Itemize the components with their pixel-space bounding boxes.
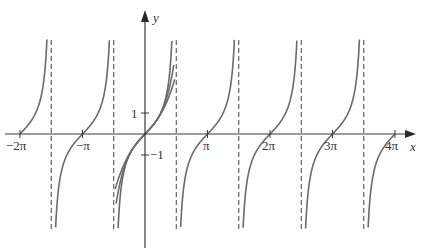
y-tick-label-neg1: −1 (150, 147, 164, 162)
x-tick-label-2pi: 2π (262, 138, 276, 153)
x-tick-label-neg2pi: −2π (6, 138, 27, 153)
x-tick-label-pi: π (203, 138, 210, 153)
y-tick-label-1: 1 (131, 106, 138, 121)
x-tick-label-4pi: 4π (385, 138, 399, 153)
x-tick-label-negpi: −π (76, 138, 90, 153)
x-axis-arrow-icon (405, 130, 416, 138)
tangent-graph: x y 1 −1 −2π −π π 2π 3π 4π (0, 0, 422, 252)
y-axis-arrow-icon (141, 10, 149, 22)
y-axis-label: y (151, 10, 159, 25)
tan-curve-branch (20, 40, 47, 134)
x-tick-label-3pi: 3π (324, 138, 338, 153)
x-axis-label: x (409, 139, 416, 154)
